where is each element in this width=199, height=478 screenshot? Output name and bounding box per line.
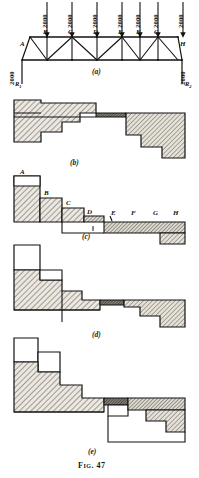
panel-c-step-label-C: C [66, 199, 71, 207]
panel-c-step-label-A: A [20, 168, 25, 176]
load-value-B: 2000 [41, 14, 48, 28]
panel-c-block-A-open-cell [14, 176, 40, 186]
truss-node-label-F: F [136, 28, 141, 36]
panel-e-open-cell-second [38, 352, 60, 372]
panel-b-diagram [14, 100, 185, 158]
panel-caption-b: (b) [70, 158, 79, 167]
panel-c-right-band [104, 222, 185, 233]
panel-e-white-inset [108, 405, 128, 416]
panel-d-open-cell [14, 245, 40, 270]
truss-diagonal-members [30, 37, 178, 60]
truss-reaction-arrows [22, 60, 182, 84]
truss-node-label-G: G [154, 28, 159, 36]
panel-caption-a: (a) [92, 67, 101, 76]
reaction-value-left: 2000 [8, 71, 15, 85]
panel-c-block-D [84, 216, 104, 222]
panel-e-right-staircase [146, 410, 185, 432]
panel-e-right-band [128, 398, 185, 410]
panel-b-right-block [126, 113, 185, 158]
panel-c-step-label-E: E [111, 209, 116, 217]
panel-d-right-staircase [124, 300, 185, 327]
panel-c-step-label-F: F [131, 209, 136, 217]
load-value-C: 2000 [66, 14, 73, 28]
load-value-D: 2000 [91, 14, 98, 28]
truss-node-label-D: D [93, 28, 98, 36]
panel-d-diagram [14, 245, 185, 327]
panel-e-diagram [14, 338, 185, 442]
load-value-G: 2000 [152, 14, 159, 28]
panel-e-open-cell-top [14, 338, 38, 362]
panel-caption-e: (e) [88, 447, 96, 456]
truss-node-label-C: C [68, 28, 73, 36]
panel-c-step-label-B: B [44, 189, 49, 197]
panel-e-connector-band [104, 398, 128, 405]
reaction-left-subscript: 1 [19, 84, 21, 89]
load-value-E: 2000 [116, 14, 123, 28]
truss-vertical-members [47, 37, 158, 60]
truss-node-label-A: A [20, 40, 25, 48]
panel-c-step-label-G: G [153, 209, 158, 217]
truss-node-label-B: B [43, 28, 48, 36]
panel-c-diagram [14, 176, 185, 244]
panel-d-connector-band [100, 300, 124, 305]
truss-node-label-H: H [180, 40, 185, 48]
panel-d-inset-notch [40, 270, 62, 280]
panel-c-step-label-H: H [173, 209, 178, 217]
panel-c-block-B [40, 198, 62, 222]
reaction-label-left: R1 [15, 80, 22, 89]
panel-c-step-label-D: D [87, 208, 92, 216]
panel-c-lower-right-block [160, 233, 185, 244]
figure-47: A B C D E F G H 2000 2000 2000 2000 2000… [0, 0, 199, 478]
panel-c-block-C [62, 208, 84, 222]
truss-node-label-E: E [118, 28, 123, 36]
reaction-label-right: R2 [185, 80, 192, 89]
load-value-H: 2000 [177, 14, 184, 28]
panel-caption-c: (c) [82, 232, 90, 241]
panel-b-left-block [14, 100, 96, 142]
panel-b-connector-band [96, 113, 126, 117]
load-value-F: 2000 [134, 14, 141, 28]
reaction-right-subscript: 2 [189, 84, 191, 89]
panel-caption-d: (d) [92, 330, 101, 339]
figure-caption: Fig. 47 [78, 461, 105, 470]
